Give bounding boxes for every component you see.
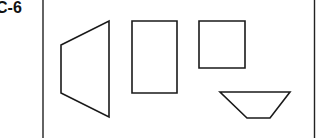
tall-rectangle-shape <box>132 21 177 93</box>
figure-canvas <box>0 0 316 138</box>
trapezoid-left-shape <box>61 21 109 117</box>
inverted-trapezoid-shape <box>220 92 290 118</box>
square-shape <box>199 21 245 68</box>
